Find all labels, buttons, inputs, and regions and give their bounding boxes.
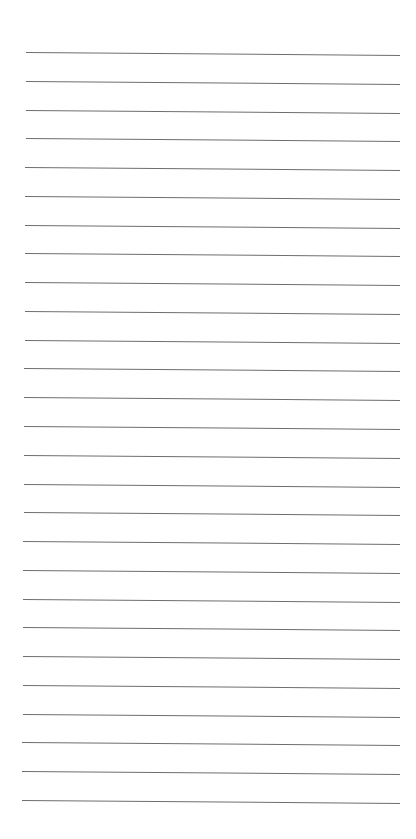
ruled-line — [25, 167, 400, 171]
ruled-line — [25, 311, 400, 315]
ruled-line — [25, 282, 400, 286]
ruled-line — [24, 512, 400, 516]
ruled-line — [23, 627, 400, 631]
lined-paper — [0, 0, 416, 839]
ruled-line — [26, 52, 400, 56]
ruled-line — [25, 225, 400, 229]
ruled-line — [22, 771, 400, 775]
ruled-line — [23, 656, 400, 660]
ruled-line — [24, 368, 400, 372]
ruled-line — [24, 455, 400, 459]
ruled-line — [23, 599, 400, 603]
ruled-line — [25, 253, 400, 257]
ruled-line — [24, 426, 400, 430]
ruled-line — [23, 685, 400, 689]
ruled-line — [25, 196, 400, 200]
ruled-line — [23, 714, 400, 718]
ruled-line — [26, 81, 400, 85]
ruled-line — [22, 742, 400, 746]
ruled-line — [24, 484, 400, 488]
ruled-line — [23, 570, 400, 574]
ruled-line — [23, 541, 400, 545]
ruled-line — [22, 800, 400, 804]
ruled-line — [24, 397, 400, 401]
ruled-line — [26, 138, 400, 142]
ruled-line — [25, 340, 400, 344]
ruled-line — [26, 110, 400, 114]
